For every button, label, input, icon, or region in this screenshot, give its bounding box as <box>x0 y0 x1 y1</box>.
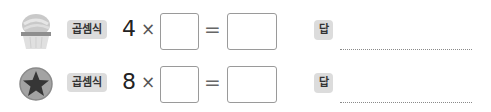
times-sign: × <box>141 18 155 40</box>
times-sign: × <box>141 71 155 93</box>
product-input-box[interactable] <box>227 66 277 103</box>
cupcake-icon <box>18 12 54 50</box>
answer-line-input[interactable] <box>340 49 472 50</box>
answer-line-input[interactable] <box>340 102 472 103</box>
multiplication-expression-label: 곱셈식 <box>67 73 107 92</box>
multiplicand: 4 <box>122 16 136 42</box>
product-input-box[interactable] <box>227 13 277 50</box>
problem-row-1: 곱셈식 4 × = 답 <box>0 6 491 56</box>
factor-input-box[interactable] <box>160 13 199 50</box>
answer-label: 답 <box>314 73 333 93</box>
problem-row-2: 곱셈식 8 × = 답 <box>0 59 491 109</box>
multiplicand: 8 <box>122 69 136 95</box>
star-icon <box>18 65 54 103</box>
equals-sign: = <box>204 17 221 41</box>
factor-input-box[interactable] <box>160 66 199 103</box>
answer-label: 답 <box>314 20 333 40</box>
multiplication-expression-label: 곱셈식 <box>67 20 107 39</box>
equals-sign: = <box>204 70 221 94</box>
